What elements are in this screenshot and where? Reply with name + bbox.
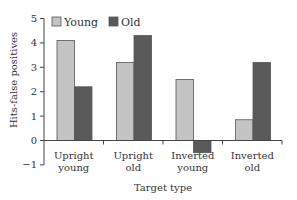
- y-axis-title: Hits-false positives: [8, 32, 19, 128]
- legend-swatch-young: [52, 17, 61, 26]
- legend: YoungOld: [52, 16, 141, 29]
- x-category-label: young: [57, 162, 90, 173]
- x-axis-title: Target type: [134, 182, 192, 193]
- y-tick-label: 3: [31, 62, 37, 73]
- y-tick-label: 0: [31, 135, 37, 146]
- y-tick-label: −1: [22, 159, 37, 170]
- bar-young: [236, 120, 254, 141]
- bars: [57, 36, 271, 153]
- legend-label-young: Young: [63, 16, 98, 29]
- y-tick-label: 4: [31, 37, 37, 48]
- x-category-label: Inverted: [171, 150, 215, 161]
- y-tick-label: 2: [31, 86, 37, 97]
- x-category-label: Inverted: [231, 150, 275, 161]
- bar-young: [176, 80, 194, 141]
- bar-young: [117, 62, 135, 140]
- y-tick-label: 5: [31, 13, 37, 24]
- x-axis: UprightyoungUprightoldInvertedyoungInver…: [44, 141, 282, 174]
- y-tick-label: 1: [31, 111, 37, 122]
- x-category-label: young: [176, 162, 209, 173]
- y-axis: −1012345: [22, 13, 44, 170]
- bar-chart: −1012345 UprightyoungUprightoldInvertedy…: [0, 0, 297, 200]
- legend-swatch-old: [109, 17, 118, 26]
- legend-label-old: Old: [121, 16, 141, 29]
- x-category-label: Upright: [113, 150, 153, 161]
- bar-old: [134, 36, 152, 141]
- x-category-label: old: [244, 162, 260, 173]
- bar-young: [57, 40, 75, 140]
- x-category-label: Upright: [54, 150, 94, 161]
- bar-old: [253, 62, 271, 140]
- bar-old: [75, 87, 93, 141]
- x-category-label: old: [125, 162, 141, 173]
